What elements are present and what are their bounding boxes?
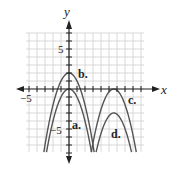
y-tick-label-neg5: −5 bbox=[50, 124, 62, 136]
y-axis-label: y bbox=[62, 4, 70, 19]
x-tick-label-neg5: −5 bbox=[20, 92, 32, 104]
axes bbox=[16, 20, 160, 164]
y-axis-arrow-up-icon bbox=[66, 20, 72, 29]
curve-label-a: a. bbox=[72, 118, 81, 132]
parabola-graph: x y −5 5 −5 b. a. c. d. bbox=[0, 0, 170, 174]
x-axis-arrow-right-icon bbox=[152, 86, 160, 92]
y-axis-arrow-down-icon bbox=[66, 156, 72, 164]
curve-label-b: b. bbox=[78, 67, 88, 81]
x-axis-label: x bbox=[160, 82, 167, 97]
curve-label-d: d. bbox=[111, 127, 121, 141]
curve-label-c: c. bbox=[128, 93, 136, 107]
y-tick-label-5: 5 bbox=[58, 43, 64, 55]
